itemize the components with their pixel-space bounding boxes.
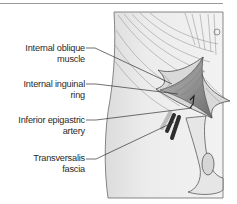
label-line: Internal oblique: [25, 43, 85, 54]
label-line: Internal inguinal: [24, 79, 85, 90]
label-line: artery: [18, 126, 85, 137]
label-line: muscle: [25, 54, 85, 65]
label-internal-inguinal-ring: Internal inguinal ring: [24, 79, 85, 101]
label-transversalis-fascia: Transversalis fascia: [33, 153, 85, 175]
label-line: ring: [24, 90, 85, 101]
label-line: Transversalis: [33, 153, 85, 164]
label-inferior-epigastric-artery: Inferior epigastric artery: [18, 115, 85, 137]
label-internal-oblique-muscle: Internal oblique muscle: [25, 43, 85, 65]
label-line: fascia: [33, 164, 85, 175]
label-line: Inferior epigastric: [18, 115, 85, 126]
